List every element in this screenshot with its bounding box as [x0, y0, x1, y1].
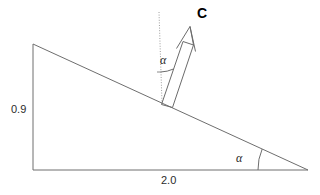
- height-label: 0.9: [11, 104, 26, 115]
- incline-angle-label: α: [236, 152, 242, 164]
- vector-angle-label: α: [160, 54, 166, 66]
- force-vector-label: C: [197, 6, 207, 20]
- incline-angle-arc: [258, 149, 262, 170]
- force-vector-shaft: [162, 42, 194, 108]
- force-vector-arrowhead-edge: [190, 27, 194, 46]
- vector-angle-arc: [161, 69, 174, 72]
- diagram-canvas: [0, 0, 320, 195]
- inclined-plane-force-diagram: 0.9 2.0 α α C: [0, 0, 320, 195]
- base-label: 2.0: [161, 175, 176, 186]
